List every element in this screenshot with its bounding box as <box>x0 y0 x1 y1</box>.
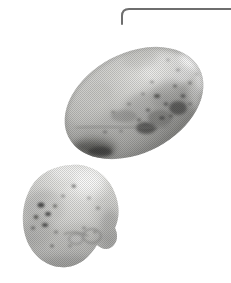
potato-photograph <box>0 0 231 283</box>
screenshot-root: two potatoes <box>0 0 231 283</box>
